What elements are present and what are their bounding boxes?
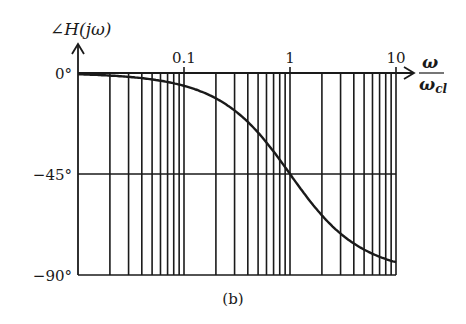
- figure-caption: (b): [222, 290, 243, 308]
- y-tick-label: −90°: [33, 267, 72, 285]
- axes: [72, 44, 414, 275]
- phase-plot: ∠H(jω) 0°−45°−90° 0.1110 ω ωcl (b): [0, 0, 466, 324]
- x-axis-label-denominator: ωcl: [419, 74, 447, 96]
- x-tick-label: 0.1: [172, 49, 196, 67]
- x-tick-label: 10: [386, 49, 405, 67]
- y-tick-label: −45°: [33, 166, 72, 184]
- y-tick-label: 0°: [55, 65, 72, 83]
- x-axis-label-numerator: ω: [422, 52, 438, 72]
- y-axis-label: ∠H(jω): [50, 19, 111, 39]
- grid-lines: [78, 73, 396, 275]
- phase-curve: [78, 74, 396, 262]
- x-tick-label: 1: [285, 49, 295, 67]
